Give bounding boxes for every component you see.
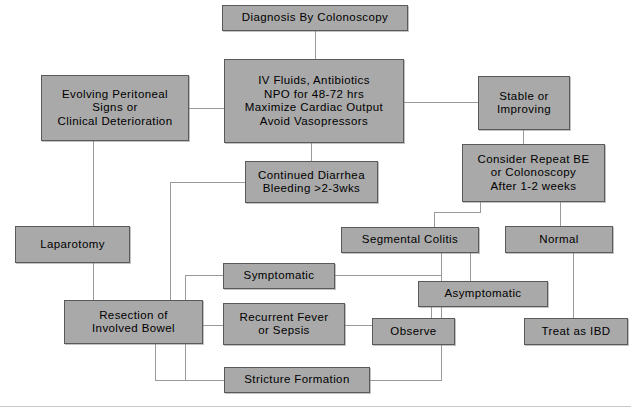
edge-stable-repeat [523, 130, 524, 144]
edge-asymptomatic-observe [431, 307, 432, 318]
node-observe[interactable]: Observe [372, 318, 455, 345]
node-stricture-label: Stricture Formation [244, 373, 349, 387]
edge-symptomatic-left [185, 275, 224, 276]
edge-segmental-stricture [370, 380, 442, 381]
node-consider-repeat-be[interactable]: Consider Repeat BE or Colonoscopy After … [462, 144, 605, 202]
footer-rule [0, 406, 631, 407]
node-resection-of-involved-bowel[interactable]: Resection of Involved Bowel [64, 300, 203, 344]
node-diagnosis-label: Diagnosis By Colonoscopy [242, 11, 388, 25]
edge-peritoneal-laparotomy [93, 141, 94, 226]
node-asymptomatic-label: Asymptomatic [444, 287, 521, 301]
node-stable-or-improving[interactable]: Stable or Improving [478, 76, 570, 130]
node-stricture-formation[interactable]: Stricture Formation [224, 367, 370, 393]
edge-normal-treatibd [573, 253, 574, 318]
node-diagnosis[interactable]: Diagnosis By Colonoscopy [222, 5, 408, 31]
node-repeat-label: Consider Repeat BE or Colonoscopy After … [477, 153, 589, 194]
node-observe-label: Observe [390, 325, 436, 339]
node-segmental-colitis[interactable]: Segmental Colitis [341, 227, 479, 253]
node-treatment-label: IV Fluids, Antibiotics NPO for 48-72 hrs… [245, 74, 383, 128]
node-normal-label: Normal [539, 233, 578, 247]
node-asymptomatic[interactable]: Asymptomatic [418, 281, 548, 307]
edge-repeat-segmental-stub [434, 212, 435, 228]
edge-diagnosis-treatment [315, 30, 316, 60]
node-recurrent-label: Recurrent Fever or Sepsis [239, 311, 328, 338]
edge-laparotomy-resection [93, 263, 94, 301]
edge-recurrent-left [203, 325, 224, 326]
node-peritoneal-label: Evolving Peritoneal Signs or Clinical De… [58, 88, 173, 129]
node-laparotomy-label: Laparotomy [40, 238, 105, 252]
node-segmental-label: Segmental Colitis [362, 233, 458, 247]
edge-treatment-peritoneal [189, 108, 225, 109]
flowchart-canvas: Diagnosis By Colonoscopy IV Fluids, Anti… [0, 0, 631, 419]
node-symptomatic-label: Symptomatic [244, 269, 315, 283]
node-continued-diarrhea[interactable]: Continued Diarrhea Bleeding >2-3wks [245, 161, 378, 203]
node-treatment[interactable]: IV Fluids, Antibiotics NPO for 48-72 hrs… [224, 59, 404, 143]
edge-resection-bottom [155, 380, 186, 381]
edge-repeat-normal [560, 202, 561, 226]
node-recurrent-fever-or-sepsis[interactable]: Recurrent Fever or Sepsis [223, 303, 345, 345]
node-treat-as-ibd[interactable]: Treat as IBD [524, 318, 628, 345]
node-diarrhea-label: Continued Diarrhea Bleeding >2-3wks [258, 169, 365, 196]
edge-repeat-segmental-down [480, 202, 481, 212]
edge-segmental-symptomatic [335, 275, 442, 276]
edge-treatment-stable [404, 102, 478, 103]
node-normal[interactable]: Normal [505, 226, 613, 253]
node-resection-label: Resection of Involved Bowel [92, 309, 175, 336]
edge-segmental-asymptomatic [470, 253, 471, 281]
node-evolving-peritoneal-signs[interactable]: Evolving Peritoneal Signs or Clinical De… [41, 75, 189, 141]
node-stable-label: Stable or Improving [497, 90, 551, 117]
node-symptomatic[interactable]: Symptomatic [223, 263, 335, 289]
node-treatibd-label: Treat as IBD [542, 325, 611, 339]
edge-stricture-left [185, 380, 225, 381]
edge-diarrhea-down [170, 182, 171, 301]
node-laparotomy[interactable]: Laparotomy [15, 226, 130, 263]
edge-resection-down-stub [155, 344, 156, 380]
edge-diarrhea-left [170, 182, 246, 183]
edge-repeat-segmental-across [434, 212, 481, 213]
edge-treatment-diarrhea [311, 143, 312, 162]
edge-segmental-spine [441, 253, 442, 380]
